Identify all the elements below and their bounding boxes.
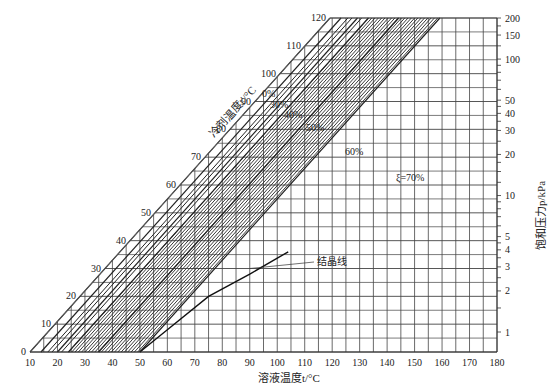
conc-label-50: 50%	[306, 122, 324, 133]
x-tick-label: 140	[380, 357, 395, 368]
x-tick-label: 10	[25, 357, 35, 368]
refrigerant-tick-label: 70	[191, 151, 201, 162]
refrigerant-tick-label: 110	[286, 40, 301, 51]
x-tick-label: 120	[325, 357, 340, 368]
conc-label-40: 40%	[284, 109, 302, 120]
pressure-tick-label: 2	[505, 285, 510, 296]
pressure-tick-label: 40	[505, 108, 515, 119]
pressure-tick-label: 3	[505, 261, 510, 272]
x-tick-label: 160	[435, 357, 450, 368]
x-tick-label: 50	[135, 357, 145, 368]
pressure-tick-label: 50	[505, 95, 515, 106]
conc-label-70: ξ=70%	[396, 172, 424, 184]
conc-label-0: 0%	[262, 88, 275, 99]
pressure-tick-label: 150	[505, 30, 520, 41]
x-tick-label: 40	[107, 357, 117, 368]
refrigerant-tick-label: 0	[21, 346, 26, 357]
refrigerant-tick-label: 10	[41, 318, 51, 329]
refrigerant-tick-label: 100	[261, 68, 276, 79]
duhring-chart: 1020304050607080901001101201301401501601…	[0, 0, 558, 391]
x-tick-label: 30	[80, 357, 90, 368]
x-tick-label: 90	[245, 357, 255, 368]
refrigerant-tick-label: 50	[141, 207, 151, 218]
x-tick-label: 60	[162, 357, 172, 368]
pressure-tick-label: 30	[505, 125, 515, 136]
right-axis-label: 饱和压力p/kPa	[534, 181, 547, 250]
pressure-tick-label: 20	[505, 149, 515, 160]
pressure-tick-label: 4	[505, 244, 510, 255]
refrigerant-tick-label: 120	[311, 12, 326, 23]
x-tick-label: 100	[270, 357, 285, 368]
x-tick-label: 110	[297, 357, 312, 368]
x-tick-label: 150	[407, 357, 422, 368]
x-axis-label: 溶液温度t/°C	[258, 371, 320, 384]
x-tick-label: 80	[217, 357, 227, 368]
pressure-tick-label: 5	[505, 231, 510, 242]
x-tick-label: 170	[462, 357, 477, 368]
x-tick-label: 70	[190, 357, 200, 368]
pressure-tick-label: 10	[505, 190, 515, 201]
pressure-tick-label: 200	[505, 13, 520, 24]
pressure-tick-label: 100	[505, 54, 520, 65]
crystal-line-label: 结晶线	[317, 255, 347, 267]
refrigerant-tick-label: 20	[66, 290, 76, 301]
x-tick-label: 20	[52, 357, 62, 368]
pressure-tick-label: 1	[505, 327, 510, 338]
labels: 溶液温度t/°C 冷剂温度t'/°C 饱和压力p/kPa 结晶线 0% 30% …	[206, 83, 547, 384]
conc-label-60: 60%	[345, 146, 363, 157]
refrigerant-tick-label: 60	[166, 179, 176, 190]
refrigerant-tick-label: 40	[116, 235, 126, 246]
x-tick-label: 130	[352, 357, 367, 368]
x-tick-label: 180	[490, 357, 505, 368]
refrigerant-tick-label: 30	[91, 263, 101, 274]
